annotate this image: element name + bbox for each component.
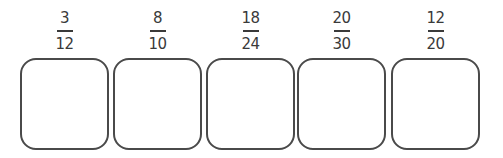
denominator: 12	[55, 36, 73, 52]
numerator: 8	[153, 10, 162, 26]
denominator: 24	[241, 36, 259, 52]
fraction-4: 20 30	[297, 10, 386, 52]
fraction-column-1: 3 12	[20, 0, 109, 158]
numerator: 3	[60, 10, 69, 26]
denominator: 30	[332, 36, 350, 52]
denominator: 20	[426, 36, 444, 52]
answer-box-4[interactable]	[297, 58, 386, 150]
numerator: 20	[332, 10, 350, 26]
fraction-3: 18 24	[206, 10, 295, 52]
answer-box-2[interactable]	[113, 58, 202, 150]
numerator: 18	[241, 10, 259, 26]
answer-box-5[interactable]	[391, 58, 480, 150]
fraction-bar	[334, 30, 350, 32]
fraction-1: 3 12	[20, 10, 109, 52]
denominator: 10	[148, 36, 166, 52]
fraction-column-4: 20 30	[297, 0, 386, 158]
answer-box-1[interactable]	[20, 58, 109, 150]
numerator: 12	[426, 10, 444, 26]
fraction-bar	[428, 30, 444, 32]
fraction-5: 12 20	[391, 10, 480, 52]
fraction-bar	[150, 30, 166, 32]
fraction-column-2: 8 10	[113, 0, 202, 158]
fraction-2: 8 10	[113, 10, 202, 52]
fraction-column-5: 12 20	[391, 0, 480, 158]
fraction-column-3: 18 24	[206, 0, 295, 158]
fraction-bar	[243, 30, 259, 32]
fraction-bar	[57, 30, 73, 32]
answer-box-3[interactable]	[206, 58, 295, 150]
